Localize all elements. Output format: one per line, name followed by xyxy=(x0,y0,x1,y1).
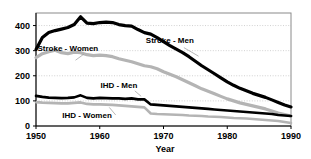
x-tick-label: 1950 xyxy=(26,131,46,141)
x-tick-label: 1980 xyxy=(217,131,237,141)
y-tick-label: 200 xyxy=(15,71,30,81)
chart-figure: Stroke - MenStroke - WomenIHD - MenIHD -… xyxy=(0,0,311,159)
y-tick-label: 100 xyxy=(15,96,30,106)
y-tick-label: 0 xyxy=(25,121,30,131)
line-chart: Stroke - MenStroke - WomenIHD - MenIHD -… xyxy=(0,0,311,159)
series-label-ihd-men: IHD - Men xyxy=(100,81,137,90)
y-tick-label: 300 xyxy=(15,46,30,56)
x-tick-label: 1990 xyxy=(281,131,301,141)
series-label-ihd-women: IHD - Women xyxy=(62,111,112,120)
x-tick-label: 1960 xyxy=(90,131,110,141)
series-label-stroke-women: Stroke - Women xyxy=(38,44,99,53)
x-axis-title: Year xyxy=(155,144,175,154)
y-tick-label: 400 xyxy=(15,21,30,31)
series-label-stroke-men: Stroke - Men xyxy=(146,36,194,45)
x-tick-label: 1970 xyxy=(153,131,173,141)
